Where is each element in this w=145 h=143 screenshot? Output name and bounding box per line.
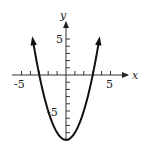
y-axis-label: y	[59, 9, 67, 22]
y-tick-label-neg5: -5	[47, 106, 58, 119]
curve-arrow-right-icon	[95, 36, 101, 45]
y-axis-ticks	[66, 39, 70, 140]
parabola-graph: y x -5 5 5 -5	[0, 0, 145, 143]
x-axis-label: x	[132, 69, 139, 82]
x-tick-label-neg5: -5	[14, 78, 25, 91]
curve-arrow-left-icon	[31, 36, 37, 45]
y-tick-label-5: 5	[56, 33, 63, 46]
x-tick-label-5: 5	[106, 78, 113, 91]
